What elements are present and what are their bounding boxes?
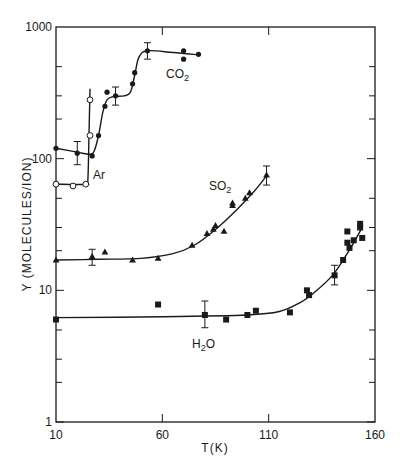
y-axis-ticks: 1101001000: [25, 20, 375, 429]
x-tick-label: 10: [49, 428, 63, 442]
y-tick-label: 10: [39, 283, 53, 297]
marker-circle-filled: [196, 52, 201, 57]
marker-square: [202, 312, 208, 318]
marker-triangle: [204, 230, 211, 236]
marker-circle-open: [87, 97, 93, 103]
marker-square: [346, 245, 352, 251]
marker-circle-filled: [96, 133, 101, 138]
marker-circle-filled: [145, 48, 150, 53]
marker-triangle: [221, 228, 228, 234]
marker-square: [287, 309, 293, 315]
marker-circle-open: [70, 183, 76, 189]
y-tick-label: 100: [32, 152, 52, 166]
marker-circle-filled: [113, 93, 118, 98]
marker-circle-open: [83, 181, 89, 187]
x-axis-ticks: 1060110160: [49, 27, 385, 442]
marker-square: [357, 225, 363, 231]
marker-triangle: [263, 172, 270, 178]
series-labels: CO2ArSO2H2O: [93, 67, 231, 353]
marker-circle-open: [53, 181, 59, 187]
marker-square: [244, 312, 250, 318]
marker-circle-open: [87, 133, 93, 139]
marker-square: [340, 257, 346, 263]
marker-square: [332, 272, 338, 278]
marker-square: [53, 317, 59, 323]
marker-circle-filled: [102, 104, 107, 109]
x-tick-label: 110: [259, 428, 278, 442]
y-axis-title: Y (MOLECULES/ION): [20, 157, 34, 292]
fit-curve-ar: [56, 89, 90, 185]
marker-circle-filled: [130, 81, 135, 86]
marker-circle-filled: [132, 70, 137, 75]
series-label-co2: CO2: [166, 67, 189, 83]
marker-square: [306, 292, 312, 298]
marker-triangle: [102, 249, 109, 255]
marker-square: [223, 317, 229, 323]
marker-triangle: [246, 189, 253, 195]
marker-square: [359, 235, 365, 241]
marker-circle-filled: [181, 48, 186, 53]
y-tick-label: 1: [45, 415, 52, 429]
error-bars: [74, 43, 338, 328]
x-axis-title: T(K): [201, 441, 228, 455]
series-label-ar: Ar: [93, 168, 105, 182]
marker-square: [344, 240, 350, 246]
marker-circle-filled: [104, 90, 109, 95]
marker-circle-filled: [90, 153, 95, 158]
marker-square: [253, 308, 259, 314]
marker-circle-filled: [181, 57, 186, 62]
x-tick-label: 60: [156, 428, 170, 442]
chart-figure: 1101001000 1060110160 CO2ArSO2H2O T(K) Y…: [0, 0, 402, 471]
x-tick-label: 160: [365, 428, 385, 442]
series-label-h2o: H2O: [192, 337, 215, 353]
marker-circle-filled: [53, 146, 58, 151]
marker-square: [344, 228, 350, 234]
fit-curve-h2o: [56, 228, 362, 318]
marker-triangle: [89, 253, 96, 259]
marker-square: [155, 302, 161, 308]
marker-circle-filled: [75, 151, 80, 156]
fit-curve-so2: [56, 176, 267, 260]
y-tick-label: 1000: [25, 20, 52, 34]
marker-square: [351, 237, 357, 243]
series-label-so2: SO2: [209, 179, 231, 195]
